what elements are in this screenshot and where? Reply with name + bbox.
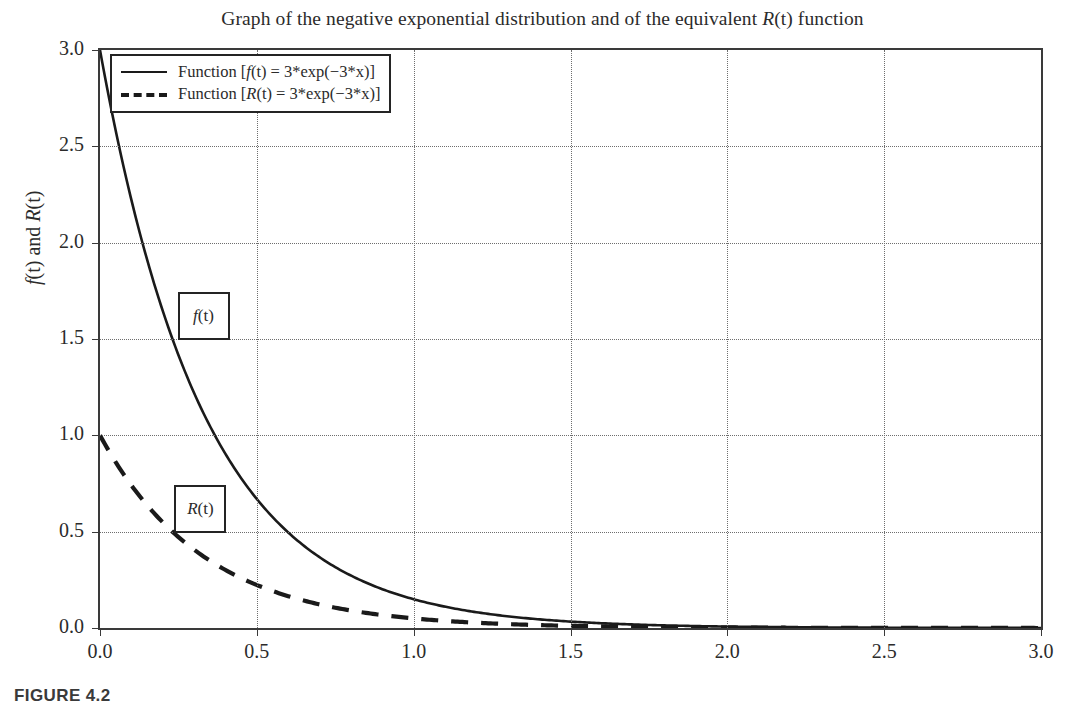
legend-label-r-it: R [246, 84, 256, 103]
x-tick-mark [100, 630, 101, 636]
annotation-suffix: (t) [198, 499, 214, 519]
figure-container: Graph of the negative exponential distri… [0, 0, 1085, 702]
x-tick-mark [257, 630, 258, 636]
plot-area: f(t)R(t) [98, 48, 1043, 630]
annotation-box-f-of-t: f(t) [178, 292, 230, 340]
legend-label-f: Function [f(t) = 3*exp(−3*x)] [178, 64, 375, 81]
chart-title: Graph of the negative exponential distri… [0, 8, 1085, 30]
x-tick-mark [1041, 630, 1042, 636]
y-tick-label: 0.0 [0, 615, 84, 638]
curve-f-of-t [100, 50, 1041, 628]
x-tick-label: 0.5 [207, 640, 307, 663]
annotation-suffix: (t) [198, 306, 214, 326]
x-tick-label: 2.5 [834, 640, 934, 663]
x-tick-label: 3.0 [991, 640, 1085, 663]
legend: Function [f(t) = 3*exp(−3*x)] Function [… [110, 54, 391, 113]
legend-label-f-pre: Function [ [178, 62, 246, 81]
chart-title-text-italic: R [762, 8, 774, 29]
y-tick-label: 3.0 [0, 37, 84, 60]
x-tick-mark [884, 630, 885, 636]
x-tick-mark [571, 630, 572, 636]
y-tick-label: 0.5 [0, 519, 84, 542]
annotation-symbol: R [187, 499, 197, 519]
curve-r-of-t [100, 435, 1041, 628]
plot-inner: f(t)R(t) [100, 50, 1041, 628]
y-tick-label: 1.0 [0, 422, 84, 445]
y-tick-label: 1.5 [0, 326, 84, 349]
curve-layer [100, 50, 1041, 628]
legend-swatch-dashed-icon [121, 87, 167, 101]
x-tick-label: 1.0 [364, 640, 464, 663]
legend-label-f-post: (t) = 3*exp(−3*x)] [251, 62, 375, 81]
y-tick-label: 2.0 [0, 230, 84, 253]
y-axis-label-end: (t) [22, 191, 44, 210]
figure-caption: FIGURE 4.2 [14, 686, 111, 702]
chart-title-text-post: (t) function [774, 8, 863, 29]
legend-item-f: Function [f(t) = 3*exp(−3*x)] [121, 61, 380, 83]
legend-swatch-solid-icon [121, 65, 167, 79]
y-tick-label: 2.5 [0, 133, 84, 156]
legend-label-r-pre: Function [ [178, 84, 246, 103]
chart-title-text-pre: Graph of the negative exponential distri… [221, 8, 762, 29]
y-axis-label-r: R [22, 209, 44, 221]
x-tick-label: 0.0 [50, 640, 150, 663]
x-tick-mark [414, 630, 415, 636]
y-axis-label-f: f [22, 279, 44, 285]
legend-item-r: Function [R(t) = 3*exp(−3*x)] [121, 83, 380, 105]
x-tick-label: 2.0 [677, 640, 777, 663]
annotation-box-r-of-t: R(t) [174, 485, 226, 533]
legend-label-r-post: (t) = 3*exp(−3*x)] [256, 84, 380, 103]
legend-label-r: Function [R(t) = 3*exp(−3*x)] [178, 86, 380, 103]
x-tick-mark [727, 630, 728, 636]
x-tick-label: 1.5 [521, 640, 621, 663]
